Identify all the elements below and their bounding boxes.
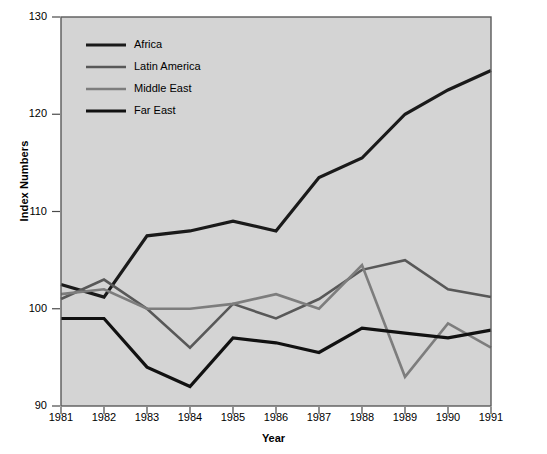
legend-label-latin-america: Latin America bbox=[134, 61, 201, 72]
y-tick-label: 130 bbox=[13, 11, 47, 22]
x-tick-label: 1991 bbox=[467, 412, 515, 423]
x-tick-label: 1989 bbox=[381, 412, 429, 423]
y-tick-label: 120 bbox=[13, 108, 47, 119]
x-tick-label: 1981 bbox=[37, 412, 85, 423]
x-tick-label: 1985 bbox=[209, 412, 257, 423]
x-tick-label: 1986 bbox=[252, 412, 300, 423]
x-tick-label: 1982 bbox=[80, 412, 128, 423]
y-tick-label: 90 bbox=[13, 400, 47, 411]
line-chart: Index Numbers Year 90100110120130 198119… bbox=[0, 0, 547, 454]
x-tick-label: 1990 bbox=[424, 412, 472, 423]
x-axis-title: Year bbox=[0, 432, 547, 444]
y-tick-label: 100 bbox=[13, 303, 47, 314]
y-axis-title: Index Numbers bbox=[18, 121, 30, 241]
x-tick-label: 1983 bbox=[123, 412, 171, 423]
legend-label-far-east: Far East bbox=[134, 105, 176, 116]
plot-area bbox=[0, 0, 547, 454]
x-tick-label: 1988 bbox=[338, 412, 386, 423]
x-tick-label: 1987 bbox=[295, 412, 343, 423]
y-tick-label: 110 bbox=[13, 206, 47, 217]
legend-label-africa: Africa bbox=[134, 39, 162, 50]
x-tick-label: 1984 bbox=[166, 412, 214, 423]
legend-label-middle-east: Middle East bbox=[134, 83, 191, 94]
plot-background bbox=[61, 17, 491, 406]
